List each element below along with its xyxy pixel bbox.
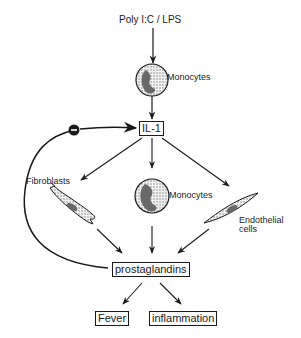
stimulus-label: Poly I:C / LPS: [119, 15, 181, 25]
inflammation-box: inflammation: [149, 311, 217, 326]
monocytes-top-label: Monocytes: [167, 72, 211, 82]
monocytes-middle-label: Monocytes: [169, 190, 213, 200]
arrow-il1-to-fibroblasts: [81, 138, 142, 180]
arrow-fibroblasts-to-prostaglandins: [97, 229, 122, 253]
monocyte-cell-top-icon: [136, 64, 168, 96]
fever-box: Fever: [95, 311, 129, 326]
monocyte-cell-middle-icon: [135, 179, 169, 213]
arrow-il1-to-endothelial: [162, 138, 229, 186]
arrow-prostaglandins-to-inflammation: [160, 283, 181, 304]
prostaglandins-box: prostaglandins: [112, 262, 190, 277]
feedback-arrow-to-il1: [80, 127, 136, 129]
fibroblasts-label: Fibroblasts: [26, 176, 70, 186]
fibroblast-cell-icon: [50, 183, 95, 224]
pathway-diagram: [0, 0, 301, 338]
inhibition-icon: [69, 125, 80, 136]
il1-box: IL-1: [139, 121, 164, 136]
arrow-prostaglandins-to-fever: [123, 283, 142, 304]
endothelial-label-line2: cells: [239, 224, 257, 234]
arrow-endothelial-to-prostaglandins: [178, 229, 209, 253]
